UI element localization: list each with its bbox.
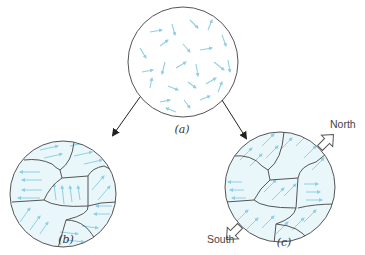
connector-arrow-a-to-c [222, 100, 246, 138]
connector-arrow-a-to-b [113, 97, 140, 135]
panel-a: (a) [128, 7, 238, 136]
north-label: North [330, 118, 356, 130]
panel-c: North South (c) [207, 118, 356, 249]
panel-b-label: (b) [58, 233, 74, 246]
panel-a-label: (a) [174, 123, 189, 136]
panel-c-label: (c) [277, 236, 292, 249]
south-label: South [207, 233, 235, 245]
magnetic-domains-figure: (a) [0, 0, 365, 255]
panel-b: (b) [10, 141, 116, 248]
